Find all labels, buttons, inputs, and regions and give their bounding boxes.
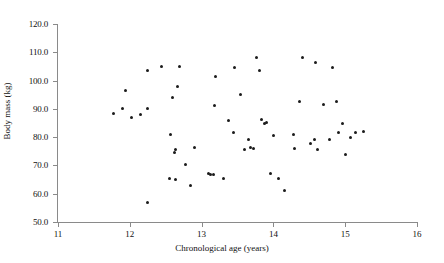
data-point <box>214 75 217 78</box>
data-point <box>277 177 280 180</box>
data-point <box>301 56 304 59</box>
x-axis-tick <box>130 222 131 227</box>
data-point <box>314 61 317 64</box>
x-axis-title: Chronological age (years) <box>0 243 444 253</box>
data-point <box>232 131 235 134</box>
data-point <box>335 100 338 103</box>
x-axis-tick-label: 16 <box>402 230 432 239</box>
data-point <box>344 153 347 156</box>
data-point <box>222 177 225 180</box>
data-point <box>260 118 263 121</box>
data-point <box>328 138 331 141</box>
data-point <box>212 173 215 176</box>
data-point <box>146 107 149 110</box>
data-point <box>337 131 340 134</box>
data-point <box>160 65 163 68</box>
data-point <box>331 66 334 69</box>
data-point <box>316 148 319 151</box>
y-axis-tick-label: 50.0 <box>4 218 48 227</box>
data-point <box>362 130 365 133</box>
data-point <box>169 133 172 136</box>
data-point <box>174 178 177 181</box>
data-point <box>247 138 250 141</box>
data-point <box>313 138 316 141</box>
data-point <box>292 133 295 136</box>
data-point <box>265 121 268 124</box>
x-axis-tick-label: 13 <box>187 230 217 239</box>
data-point <box>233 66 236 69</box>
data-point <box>139 113 142 116</box>
x-axis-tick <box>202 222 203 227</box>
data-point <box>298 100 301 103</box>
data-point <box>121 107 124 110</box>
data-point <box>252 147 255 150</box>
y-axis-tick-label: 60.0 <box>4 190 48 199</box>
data-point <box>171 96 174 99</box>
x-axis-tick <box>58 222 59 227</box>
data-point <box>272 134 275 137</box>
data-point <box>269 172 272 175</box>
data-point <box>341 122 344 125</box>
x-axis-tick <box>345 222 346 227</box>
x-axis-tick-label: 14 <box>258 230 288 239</box>
data-point <box>309 142 312 145</box>
y-axis-tick-label: 90.0 <box>4 105 48 114</box>
data-point <box>146 69 149 72</box>
x-axis-tick <box>417 222 418 227</box>
x-axis-line <box>58 222 418 223</box>
y-axis-tick-label: 110.0 <box>4 48 48 57</box>
data-point <box>293 147 296 150</box>
y-axis-tick-label: 120.0 <box>4 20 48 29</box>
x-axis-tick-label: 11 <box>43 230 73 239</box>
data-point <box>168 177 171 180</box>
data-point <box>130 116 133 119</box>
data-point <box>354 131 357 134</box>
data-point <box>239 93 242 96</box>
data-point <box>227 119 230 122</box>
data-point <box>283 189 286 192</box>
data-point <box>112 112 115 115</box>
data-point <box>213 104 216 107</box>
data-point <box>243 148 246 151</box>
x-axis-tick-label: 15 <box>330 230 360 239</box>
data-point <box>184 163 187 166</box>
y-axis-tick-label: 80.0 <box>4 133 48 142</box>
data-point <box>258 69 261 72</box>
y-axis-tick-label: 100.0 <box>4 77 48 86</box>
plot-area <box>58 24 417 222</box>
data-point <box>189 184 192 187</box>
data-point <box>178 65 181 68</box>
data-point <box>146 201 149 204</box>
data-point <box>349 136 352 139</box>
scatter-plot-figure: Body mass (kg) Chronological age (years)… <box>0 0 444 263</box>
data-point <box>124 89 127 92</box>
x-axis-tick-label: 12 <box>115 230 145 239</box>
data-point <box>176 85 179 88</box>
data-point <box>193 146 196 149</box>
data-point <box>322 103 325 106</box>
data-point <box>173 151 176 154</box>
data-point <box>255 56 258 59</box>
x-axis-tick <box>273 222 274 227</box>
y-axis-tick-label: 70.0 <box>4 161 48 170</box>
